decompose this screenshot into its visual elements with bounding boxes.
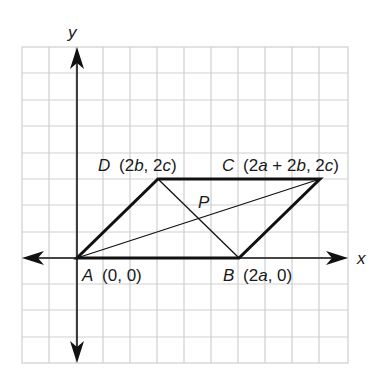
- coordinate-diagram: y x D (2b, 2c) C (2a + 2b, 2c) P A (0, 0…: [0, 0, 392, 390]
- y-axis-label: y: [67, 23, 78, 42]
- point-b-label: B (2a, 0): [223, 266, 292, 285]
- point-c-label: C (2a + 2b, 2c): [222, 156, 339, 175]
- point-p-label: P: [198, 193, 210, 212]
- point-a-label: A (0, 0): [81, 266, 142, 285]
- point-d-label: D (2b, 2c): [98, 156, 177, 175]
- x-axis-label: x: [356, 249, 366, 268]
- diagonal-bd: [158, 179, 239, 258]
